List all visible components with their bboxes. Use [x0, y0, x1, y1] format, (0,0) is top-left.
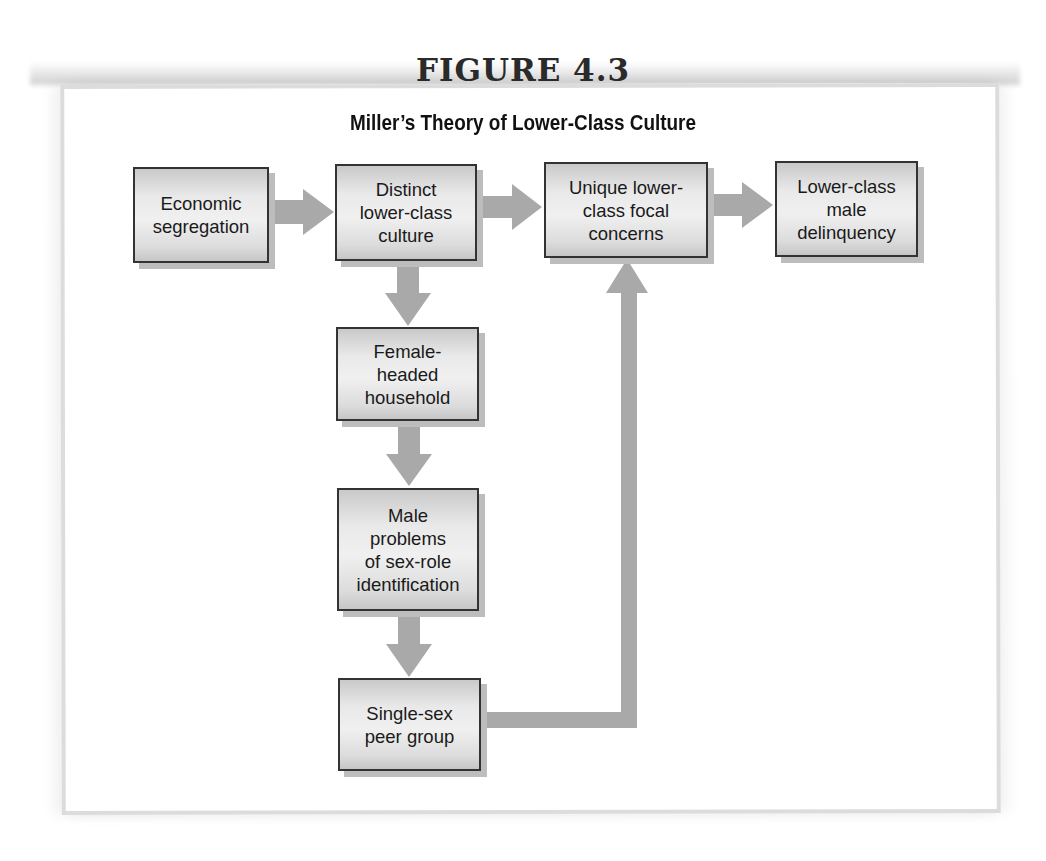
arrow-culture-to-household [385, 262, 431, 326]
arrow-male-problems-to-peer-group [386, 612, 432, 677]
node-distinct-lower-class-culture: Distinct lower-class culture [335, 164, 477, 261]
node-economic-segregation: Economic segregation [133, 167, 269, 263]
arrow-peer-group-to-focal [481, 259, 648, 728]
arrow-focal-to-delinquency [708, 182, 773, 228]
node-female-headed-household: Female- headed household [336, 327, 479, 421]
node-unique-focal-concerns: Unique lower- class focal concerns [544, 162, 708, 258]
node-single-sex-peer-group: Single-sex peer group [338, 678, 481, 771]
node-male-sex-role-problems: Male problems of sex-role identification [337, 488, 479, 611]
arrow-culture-to-focal [478, 184, 542, 230]
node-lower-class-male-delinquency: Lower-class male delinquency [775, 161, 918, 257]
connectors [0, 0, 1046, 861]
arrow-household-to-male-problems [386, 422, 432, 486]
arrow-econ-to-culture [269, 189, 334, 235]
